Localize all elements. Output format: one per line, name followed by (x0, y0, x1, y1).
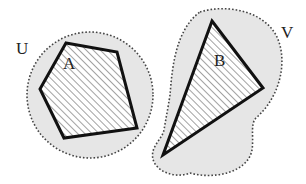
label-v: V (281, 23, 294, 42)
diagram-canvas: U V A B (0, 0, 306, 184)
label-a: A (63, 54, 76, 73)
label-b: B (214, 51, 225, 70)
label-u: U (16, 39, 28, 58)
